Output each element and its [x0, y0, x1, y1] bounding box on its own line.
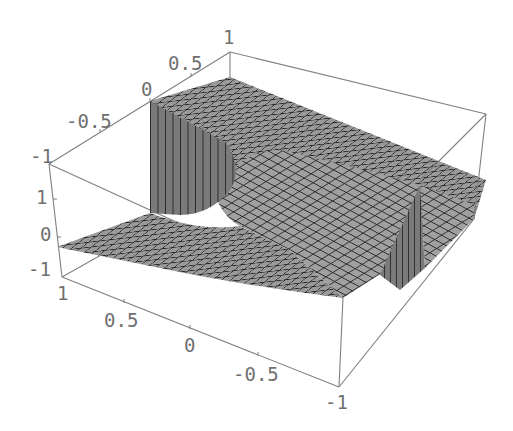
tick-label: 1	[36, 186, 47, 208]
tick-label: 0	[40, 223, 51, 245]
tick-label: 0.5	[168, 52, 202, 74]
surface-plot-3d: -1 -0.5 0 0.5 1 1 0 -1 1 0.5 0 -0.5 -1	[0, 0, 513, 431]
tick-label: 1	[57, 282, 68, 304]
tick-label: 1	[223, 26, 234, 48]
tick-label: -1	[28, 258, 51, 280]
tick-label: -1	[30, 145, 53, 167]
tick-label: -1	[325, 391, 348, 413]
tick-label: 0.5	[104, 309, 138, 331]
tick-label: 0	[141, 78, 152, 100]
front-axis-labels: 1 0.5 0 -0.5 -1	[57, 282, 348, 413]
tick-label: 0	[184, 334, 195, 356]
tick-label: -0.5	[66, 110, 112, 132]
vertical-axis-labels: 1 0 -1	[28, 186, 51, 280]
tick-label: -0.5	[233, 363, 279, 385]
